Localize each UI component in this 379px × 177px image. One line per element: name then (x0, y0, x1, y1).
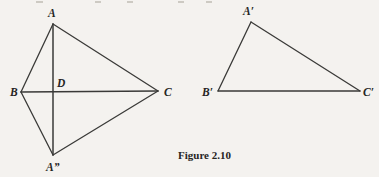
scan-artifact (206, 1, 212, 3)
scan-artifact (36, 1, 43, 3)
vertex-label-A-prime: A′ (242, 5, 254, 17)
right-triangle-diagram (218, 22, 360, 91)
figure-caption: Figure 2.10 (178, 149, 231, 161)
scan-artifact (127, 1, 133, 3)
vertex-label-C: C (164, 86, 172, 98)
segment-A-C (53, 24, 158, 91)
scan-artifacts-group (36, 1, 212, 3)
segment-Ap-Cp (251, 22, 360, 91)
segment-B-C (21, 91, 158, 92)
geometry-figure-canvas: A B C D A” A′ B′ C′ Figure 2.10 (0, 0, 379, 177)
scan-artifact (178, 1, 184, 3)
left-figure-labels: A B C D A” (9, 7, 172, 173)
vertex-label-B: B (9, 86, 18, 98)
vertex-label-C-prime: C′ (363, 86, 374, 98)
vertex-label-B-prime: B′ (201, 86, 213, 98)
left-kite-diagram (21, 24, 158, 155)
vertex-label-A: A (47, 7, 56, 19)
segment-A-B (21, 24, 53, 92)
segment-Ap-Bp (218, 22, 251, 91)
figure-container: A B C D A” A′ B′ C′ Figure 2.10 (0, 0, 379, 177)
segment-B-A2 (21, 92, 53, 155)
segment-A2-C (53, 91, 158, 155)
vertex-label-A-double-prime: A” (45, 161, 60, 173)
vertex-label-D: D (56, 77, 66, 89)
scan-artifact (95, 1, 101, 3)
